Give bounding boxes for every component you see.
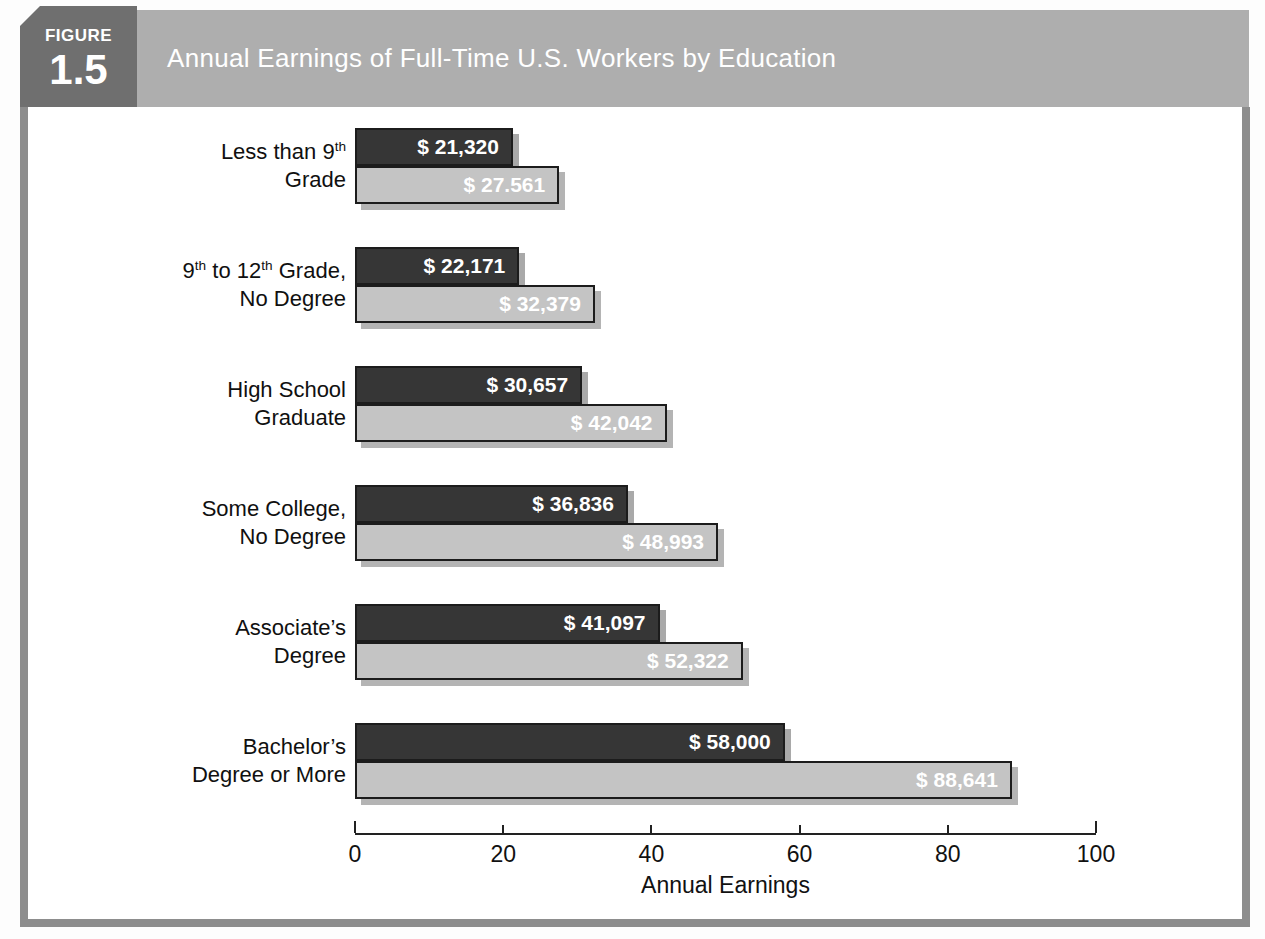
dark-bar-value: $ 41,097 bbox=[564, 611, 646, 635]
dark-bar: $ 30,657 bbox=[355, 366, 582, 404]
category-label: Associate’sDegree bbox=[28, 604, 355, 680]
x-axis-title: Annual Earnings bbox=[355, 872, 1096, 899]
dark-bar-value: $ 22,171 bbox=[424, 254, 506, 278]
x-axis-tick bbox=[502, 825, 504, 833]
x-axis-tick-label: 20 bbox=[490, 841, 516, 868]
bar-group: Associate’sDegree $ 41,097 $ 52,322 bbox=[28, 604, 1242, 680]
category-label: 9th to 12th Grade,No Degree bbox=[28, 247, 355, 323]
category-label: Less than 9thGrade bbox=[28, 128, 355, 204]
x-axis-tick bbox=[947, 825, 949, 833]
bar-pair: $ 58,000 $ 88,641 bbox=[355, 723, 1096, 799]
light-bar-value: $ 27.561 bbox=[463, 173, 545, 197]
dark-bar: $ 58,000 bbox=[355, 723, 785, 761]
light-bar: $ 32,379 bbox=[355, 285, 595, 323]
light-bar-value: $ 52,322 bbox=[647, 649, 729, 673]
light-bar: $ 48,993 bbox=[355, 523, 718, 561]
dark-bar: $ 36,836 bbox=[355, 485, 628, 523]
x-axis-tick-label: 60 bbox=[787, 841, 813, 868]
dark-bar: $ 41,097 bbox=[355, 604, 660, 642]
x-axis: 020406080100 Annual Earnings bbox=[355, 821, 1096, 899]
bar-pair: $ 30,657 $ 42,042 bbox=[355, 366, 1096, 442]
light-bar-value: $ 48,993 bbox=[622, 530, 704, 554]
figure-title-bar: Annual Earnings of Full-Time U.S. Worker… bbox=[137, 10, 1249, 107]
bar-group: Less than 9thGrade $ 21,320 $ 27.561 bbox=[28, 128, 1242, 204]
x-axis-tick bbox=[799, 825, 801, 833]
bar-pair: $ 21,320 $ 27.561 bbox=[355, 128, 1096, 204]
bar-group: Bachelor’sDegree or More $ 58,000 $ 88,6… bbox=[28, 723, 1242, 799]
x-axis-tick-label: 0 bbox=[349, 841, 362, 868]
light-bar-value: $ 32,379 bbox=[499, 292, 581, 316]
bar-chart: Less than 9thGrade $ 21,320 $ 27.561 9th… bbox=[28, 107, 1242, 799]
dark-bar-value: $ 21,320 bbox=[417, 135, 499, 159]
figure-badge-label: FIGURE bbox=[20, 26, 137, 46]
dark-bar-value: $ 36,836 bbox=[532, 492, 614, 516]
x-axis-tick-label: 100 bbox=[1077, 841, 1115, 868]
x-axis-tick bbox=[650, 825, 652, 833]
light-bar: $ 88,641 bbox=[355, 761, 1012, 799]
light-bar: $ 52,322 bbox=[355, 642, 743, 680]
x-axis-tick-label: 40 bbox=[639, 841, 665, 868]
figure-badge-number: 1.5 bbox=[20, 48, 137, 92]
bar-pair: $ 22,171 $ 32,379 bbox=[355, 247, 1096, 323]
bar-pair: $ 41,097 $ 52,322 bbox=[355, 604, 1096, 680]
x-axis-line bbox=[355, 821, 1096, 835]
bar-pair: $ 36,836 $ 48,993 bbox=[355, 485, 1096, 561]
light-bar: $ 27.561 bbox=[355, 166, 559, 204]
bar-group: Some College,No Degree $ 36,836 $ 48,993 bbox=[28, 485, 1242, 561]
figure-badge: FIGURE 1.5 bbox=[20, 6, 137, 107]
category-label: High SchoolGraduate bbox=[28, 366, 355, 442]
bar-group: High SchoolGraduate $ 30,657 $ 42,042 bbox=[28, 366, 1242, 442]
x-axis-tick bbox=[354, 821, 356, 833]
figure-page: FIGURE 1.5 Annual Earnings of Full-Time … bbox=[0, 0, 1265, 939]
category-label: Some College,No Degree bbox=[28, 485, 355, 561]
bar-group: 9th to 12th Grade,No Degree $ 22,171 $ 3… bbox=[28, 247, 1242, 323]
dark-bar-value: $ 30,657 bbox=[486, 373, 568, 397]
figure-title: Annual Earnings of Full-Time U.S. Worker… bbox=[167, 43, 836, 74]
light-bar-value: $ 42,042 bbox=[571, 411, 653, 435]
dark-bar: $ 22,171 bbox=[355, 247, 519, 285]
light-bar-value: $ 88,641 bbox=[916, 768, 998, 792]
chart-panel: Less than 9thGrade $ 21,320 $ 27.561 9th… bbox=[20, 107, 1250, 927]
dark-bar: $ 21,320 bbox=[355, 128, 513, 166]
x-axis-tick-labels: 020406080100 bbox=[355, 841, 1096, 869]
x-axis-tick bbox=[1095, 821, 1097, 833]
x-axis-tick-label: 80 bbox=[935, 841, 961, 868]
category-label: Bachelor’sDegree or More bbox=[28, 723, 355, 799]
dark-bar-value: $ 58,000 bbox=[689, 730, 771, 754]
light-bar: $ 42,042 bbox=[355, 404, 667, 442]
